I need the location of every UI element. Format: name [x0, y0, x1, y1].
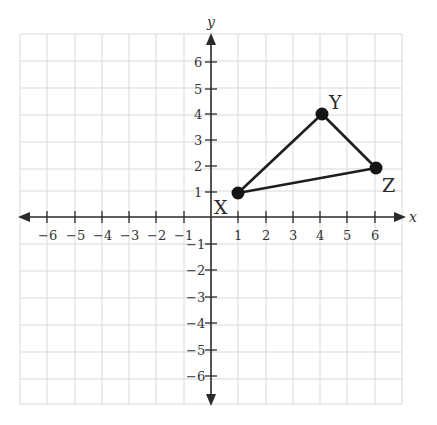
y-tick-label: 2	[194, 159, 202, 174]
edge-yz	[322, 114, 376, 168]
y-tick-label: 4	[194, 107, 202, 122]
y-tick-label: −3	[186, 290, 205, 305]
x-axis-label: x	[409, 209, 417, 225]
x-tick-label: 5	[343, 228, 351, 243]
y-axis-label: y	[206, 14, 216, 30]
vertex-x-label: X	[214, 196, 228, 218]
y-tick-label: 5	[194, 82, 202, 97]
y-tick-label: 6	[194, 55, 202, 70]
y-tick-labels: 6 5 4 3 2 1 −1 −2 −3 −4 −5 −6	[186, 55, 205, 384]
y-tick-label: −1	[186, 237, 205, 252]
x-tick-label: 1	[234, 228, 242, 243]
y-tick-label: −2	[186, 263, 205, 278]
x-tick-label: −4	[93, 228, 112, 243]
triangle-xyz	[232, 108, 383, 200]
y-tick-label: −4	[186, 316, 205, 331]
y-tick-label: 3	[194, 133, 202, 148]
y-tick-label: 1	[194, 185, 202, 200]
y-axis-up-arrow-icon	[206, 33, 216, 45]
x-tick-label: 6	[371, 228, 379, 243]
x-tick-label: −3	[120, 228, 139, 243]
vertex-y-point	[316, 108, 329, 121]
x-tick-label: 4	[316, 228, 324, 243]
x-tick-labels: −6 −5 −4 −3 −2 −1 1 2 3 4 5 6	[38, 228, 379, 243]
vertex-z-label: Z	[382, 174, 395, 196]
coordinate-plane: x y −6 −5 −4 −3 −2 −1 1 2 3 4 5 6	[0, 0, 437, 425]
vertex-y-label: Y	[328, 91, 342, 113]
x-tick-label: −5	[66, 228, 85, 243]
x-tick-label: 3	[289, 228, 297, 243]
vertex-z-point	[370, 162, 383, 175]
x-tick-label: −6	[38, 228, 57, 243]
x-tick-label: −2	[147, 228, 166, 243]
y-tick-label: −5	[186, 343, 205, 358]
y-tick-label: −6	[186, 369, 205, 384]
x-tick-label: 2	[262, 228, 270, 243]
vertex-x-point	[232, 187, 245, 200]
x-axis-right-arrow-icon	[394, 212, 406, 222]
